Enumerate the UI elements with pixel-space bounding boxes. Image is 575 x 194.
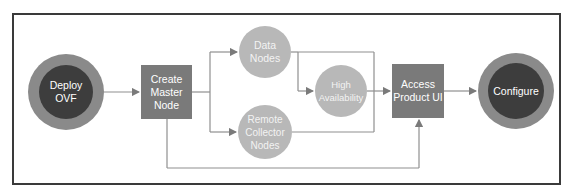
deploy-ovf-label: Deploy OVF (38, 72, 94, 112)
high-availability-label: High Availability (315, 71, 367, 111)
access-product-ui-label: Access Product UI (392, 64, 444, 118)
data-nodes-label: Data Nodes (241, 32, 289, 72)
remote-collector-label: Remote Collector Nodes (238, 107, 292, 157)
create-master-node-label: Create Master Node (141, 65, 192, 119)
configure-label: Configure (488, 71, 544, 111)
